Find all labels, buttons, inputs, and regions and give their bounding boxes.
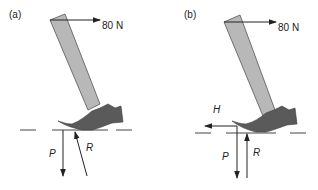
force-r-label-a: R [86, 142, 93, 153]
force-r-arrow-a [75, 132, 87, 176]
force-p-label-a: P [49, 148, 56, 159]
panel-b: (b) 80 N H P R [184, 9, 306, 178]
hammer-handle-a [50, 14, 100, 110]
panel-a-label: (a) [9, 9, 21, 20]
applied-force-label-b: 80 N [278, 22, 299, 33]
force-r-label-b: R [253, 147, 260, 158]
force-p-label-b: P [222, 151, 229, 162]
force-h-label-b: H [213, 104, 221, 115]
panel-b-label: (b) [184, 9, 196, 20]
hammer-force-diagram: (a) 80 N P R (b) [0, 0, 318, 190]
hammer-handle-b [224, 15, 275, 116]
panel-a: (a) 80 N P R [9, 9, 132, 176]
applied-force-label-a: 80 N [102, 20, 123, 31]
